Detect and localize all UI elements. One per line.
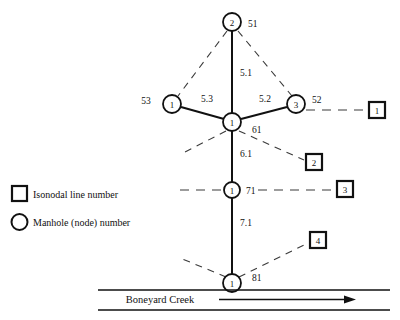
- node-top-iso-label: 51: [248, 19, 258, 29]
- iso-box-1[interactable]: 1: [369, 102, 385, 118]
- legend-manhole-label: Manhole (node) number: [33, 217, 131, 229]
- node-left[interactable]: 1: [163, 95, 181, 113]
- isonodal-line-81-right: [239, 243, 308, 277]
- node-top[interactable]: 2: [223, 13, 241, 31]
- edge-label-6-1: 6.1: [240, 149, 252, 159]
- node-mid-lower[interactable]: 1: [224, 182, 240, 198]
- node-center[interactable]: 1: [223, 113, 241, 131]
- node-left-label: 1: [170, 100, 175, 110]
- isonodal-boxes-group: 1 2 3 4: [306, 102, 385, 248]
- legend-square-icon: [12, 186, 27, 201]
- node-bottom-label: 1: [230, 279, 235, 289]
- legend-manhole: Manhole (node) number: [12, 214, 131, 230]
- legend-isonodal-label: Isonodal line number: [33, 189, 119, 200]
- edge-label-5-1: 5.1: [240, 68, 252, 78]
- iso-box-2-label: 2: [312, 158, 317, 168]
- network-diagram-svg: 1 2 3 4 2 1: [0, 0, 400, 320]
- isonodal-dashed-lines-group: [178, 31, 367, 277]
- legend-isonodal: Isonodal line number: [12, 186, 119, 201]
- edge-label-5-3: 5.3: [201, 94, 213, 104]
- diagram-canvas: 1 2 3 4 2 1: [0, 0, 400, 320]
- node-right-iso-label: 52: [312, 95, 322, 105]
- creek-flow-arrow-icon: [219, 296, 356, 304]
- legend-circle-icon: [12, 214, 28, 230]
- manhole-nodes-group: 2 1 1 3 1 1: [163, 13, 305, 292]
- iso-box-3[interactable]: 3: [337, 181, 353, 197]
- iso-box-3-label: 3: [343, 185, 348, 195]
- node-top-label: 2: [230, 18, 235, 28]
- iso-box-1-label: 1: [375, 106, 380, 116]
- iso-box-2[interactable]: 2: [306, 154, 322, 170]
- node-center-iso-label: 61: [252, 125, 262, 135]
- legend: Isonodal line number Manhole (node) numb…: [12, 186, 131, 230]
- boneyard-creek-group: Boneyard Creek: [98, 290, 390, 310]
- edge-right-to-center: [241, 107, 287, 119]
- edge-left-to-center: [181, 107, 224, 119]
- iso-box-4-label: 4: [316, 236, 321, 246]
- node-left-iso-label: 53: [141, 96, 151, 106]
- edge-label-5-2: 5.2: [259, 94, 271, 104]
- node-mid-lower-iso-label: 71: [246, 186, 256, 196]
- isonodal-line-61-left: [185, 131, 226, 152]
- node-right[interactable]: 3: [287, 95, 305, 113]
- edge-label-7-1: 7.1: [240, 218, 252, 228]
- solid-edges-group: [181, 31, 287, 275]
- node-center-label: 1: [230, 118, 235, 128]
- isonodal-line-51-right: [238, 31, 292, 96]
- isonodal-line-81-left: [180, 258, 226, 277]
- creek-label: Boneyard Creek: [126, 294, 195, 305]
- edge-labels-group: 5.1 5.3 5.2 6.1 7.1: [201, 68, 271, 228]
- isonodal-line-51-left: [178, 31, 227, 96]
- node-mid-lower-label: 1: [230, 186, 235, 196]
- iso-box-4[interactable]: 4: [310, 232, 326, 248]
- node-right-label: 3: [294, 100, 299, 110]
- node-bottom-iso-label: 81: [252, 273, 262, 283]
